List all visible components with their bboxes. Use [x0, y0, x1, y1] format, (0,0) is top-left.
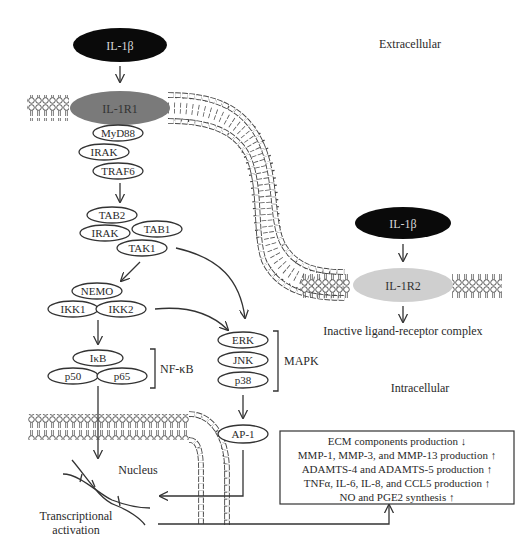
svg-text:TAB1: TAB1 — [144, 223, 171, 235]
nfkb-bracket — [150, 349, 155, 388]
svg-text:MyD88: MyD88 — [101, 127, 136, 139]
nucleus-label: Nucleus — [118, 463, 158, 477]
outcome-item: ADAMTS-4 and ADAMTS-5 production ↑ — [302, 463, 493, 475]
node-ap1: AP-1 — [218, 425, 268, 443]
inactive-complex-label: Inactive ligand-receptor complex — [323, 324, 482, 338]
svg-text:p50: p50 — [65, 370, 82, 382]
extracellular-label: Extracellular — [379, 37, 441, 51]
outcome-item: ECM components production ↓ — [328, 435, 466, 447]
nfkb-label: NF-κB — [160, 362, 193, 376]
svg-text:IRAK: IRAK — [91, 146, 118, 158]
arrow-transcription-to-outcomes — [158, 505, 389, 524]
svg-text:AP-1: AP-1 — [231, 428, 254, 440]
ligand-il1b-left: IL-1β — [73, 28, 167, 62]
outcome-item: TNFα, IL-6, IL-8, and CCL5 production ↑ — [304, 477, 490, 489]
node-p50: p50 — [48, 368, 98, 384]
svg-text:p38: p38 — [235, 374, 252, 386]
node-jnk: JNK — [218, 352, 268, 368]
mapk-bracket — [273, 331, 278, 391]
ligand-il1b-right: IL-1β — [355, 207, 451, 239]
cell-membrane — [27, 95, 502, 298]
outcome-item: MMP-1, MMP-3, and MMP-13 production ↑ — [298, 449, 496, 461]
svg-text:NEMO: NEMO — [81, 285, 113, 297]
svg-text:JNK: JNK — [233, 354, 253, 366]
node-tab1: TAB1 — [132, 221, 182, 237]
node-irak-adaptor: IRAK — [79, 144, 129, 160]
node-ikk2: IKK2 — [96, 301, 146, 317]
arrow-tak1-to-mapk — [176, 248, 245, 318]
node-ikb: IκB — [73, 350, 123, 366]
receptor-il1r1: IL-1R1 — [70, 91, 170, 125]
node-nemo: NEMO — [72, 283, 122, 299]
node-tak1: TAK1 — [117, 240, 167, 256]
outcome-item: NO and PGE2 synthesis ↑ — [340, 491, 455, 503]
svg-text:IL-1R2: IL-1R2 — [385, 279, 420, 293]
transcription-label-1: Transcriptional — [40, 509, 114, 523]
node-myd88: MyD88 — [93, 125, 143, 141]
node-erk: ERK — [218, 332, 268, 348]
svg-text:p65: p65 — [114, 370, 131, 382]
arrow-tak1-to-nemo — [121, 262, 140, 281]
mapk-label: MAPK — [284, 354, 319, 368]
node-traf6: TRAF6 — [93, 163, 143, 179]
svg-text:IKK2: IKK2 — [108, 303, 133, 315]
svg-text:IL-1β: IL-1β — [389, 217, 416, 231]
node-irak-tak: IRAK — [80, 225, 130, 241]
intracellular-label: Intracellular — [391, 381, 450, 395]
node-tab2: TAB2 — [87, 207, 137, 223]
svg-text:ERK: ERK — [232, 334, 254, 346]
node-ikk1: IKK1 — [48, 301, 98, 317]
node-p38: p38 — [218, 372, 268, 388]
arrow-ikk-to-mapk — [155, 308, 228, 330]
svg-text:TAK1: TAK1 — [128, 242, 155, 254]
svg-text:TRAF6: TRAF6 — [101, 165, 135, 177]
node-p65: p65 — [97, 368, 147, 384]
svg-text:TAB2: TAB2 — [99, 209, 126, 221]
svg-text:IκB: IκB — [90, 352, 107, 364]
outcomes-box: ECM components production ↓ MMP-1, MMP-3… — [280, 431, 514, 504]
svg-text:IKK1: IKK1 — [60, 303, 85, 315]
transcription-label-2: activation — [52, 523, 99, 537]
il1-signaling-diagram: IL-1β IL-1R1 MyD88 IRAK TRAF6 TAB2 IRAK … — [0, 0, 525, 560]
svg-text:IL-1β: IL-1β — [106, 39, 133, 53]
svg-text:IRAK: IRAK — [92, 227, 119, 239]
receptor-il1r2: IL-1R2 — [353, 268, 453, 302]
svg-text:IL-1R1: IL-1R1 — [102, 102, 137, 116]
